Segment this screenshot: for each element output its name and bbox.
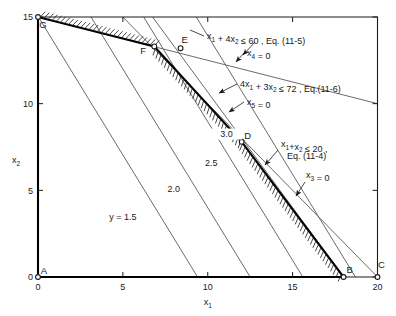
vertex-marker-F xyxy=(152,44,157,49)
x-tick-label: 10 xyxy=(203,282,213,292)
vertex-labels: ABCDEFG xyxy=(39,19,385,276)
objective-line-label: 2.0 xyxy=(168,184,181,194)
plot-canvas: ABCDEFG y = 1.52.02.53.0 05101520051015 … xyxy=(0,0,396,316)
objective-line-label: 2.5 xyxy=(205,158,218,168)
objective-line-2 xyxy=(91,17,250,277)
vertex-marker-C xyxy=(375,275,380,280)
vertex-label-E: E xyxy=(181,34,187,45)
tick-labels: 05101520051015 xyxy=(23,12,383,292)
vertex-marker-E xyxy=(178,46,183,51)
x-tick-label: 0 xyxy=(35,282,40,292)
y-tick-label: 15 xyxy=(23,12,33,22)
objective-line-label: y = 1.5 xyxy=(109,212,136,222)
leader-c6 xyxy=(219,84,237,93)
hatch-group xyxy=(240,143,342,281)
y-tick-label: 5 xyxy=(28,186,33,196)
linear-programming-figure: ABCDEFG y = 1.52.02.53.0 05101520051015 … xyxy=(0,0,396,316)
x-tick-label: 15 xyxy=(288,282,298,292)
vertex-markers xyxy=(36,15,380,280)
objective-line-labels: y = 1.52.02.53.0 xyxy=(107,129,243,223)
annotation-slack-x5: x5 = 0 xyxy=(247,97,270,110)
axis-titles: x1x2 xyxy=(12,155,212,309)
leader-x4 xyxy=(236,53,244,62)
y-axis-title: x2 xyxy=(12,155,21,167)
y-tick-label: 10 xyxy=(23,99,33,109)
annotation-constraint-c5: x1 + 4x2 ≤ 60 , Eq. (11-5) xyxy=(207,31,305,46)
vertex-label-D: D xyxy=(244,130,251,141)
objective-line-label: 3.0 xyxy=(220,129,233,139)
annotation-constraint-c4-ref: Eq. (11-4) xyxy=(287,151,326,161)
objective-line-1.5 xyxy=(38,17,197,277)
x-axis-title: x1 xyxy=(204,297,213,309)
x-tick-label: 5 xyxy=(120,282,125,292)
vertex-label-F: F xyxy=(140,45,146,56)
leader-x5 xyxy=(229,102,244,112)
x-tick-label: 20 xyxy=(372,282,382,292)
annotation-slack-x3: x3 = 0 xyxy=(306,170,329,183)
objective-line-2.5 xyxy=(144,17,303,277)
annotation-slack-x4: x4 = 0 xyxy=(247,48,270,61)
vertex-label-B: B xyxy=(346,264,352,275)
vertex-label-C: C xyxy=(378,259,385,270)
constraint-lines xyxy=(38,0,378,277)
vertex-marker-B xyxy=(341,275,346,280)
leader-x3 xyxy=(296,182,305,196)
vertex-marker-A xyxy=(36,275,41,280)
leader-c4 xyxy=(265,150,278,165)
vertex-label-A: A xyxy=(41,265,48,276)
vertex-label-G: G xyxy=(39,19,46,30)
objective-line-3 xyxy=(196,17,355,277)
y-tick-label: 0 xyxy=(28,272,33,282)
